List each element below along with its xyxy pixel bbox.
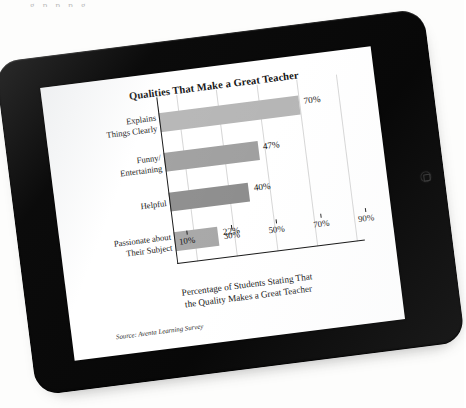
tick-label: 50% [268,223,285,235]
category-label: Helpful [67,198,168,221]
plot-wrapper: ExplainsThings ClearlyFunny/Entertaining… [54,79,383,277]
bar-value-label: 70% [303,94,321,106]
category-label: ExplainsThings Clearly [56,113,158,146]
tick-mark [320,214,321,218]
tick-mark [186,231,187,235]
tick-label: 90% [357,212,374,224]
category-label-line: Helpful [67,198,168,221]
category-axis-labels: ExplainsThings ClearlyFunny/Entertaining… [54,105,176,277]
device-bezel: Qualities That Make a Great Teacher Expl… [0,8,465,395]
category-label: Funny/Entertaining [61,152,163,185]
bar[interactable] [158,96,300,132]
category-label: Passionate aboutTheir Subject [71,232,173,265]
tick-mark [275,219,276,223]
page-text-fragment: g p p p g [30,0,454,7]
bar[interactable] [163,141,259,172]
tick-mark [231,225,232,229]
tick-label: 70% [313,218,330,230]
bar-value-label: 40% [253,181,271,193]
chart-figure: Qualities That Make a Great Teacher Expl… [40,46,405,361]
tablet-screen[interactable]: Qualities That Make a Great Teacher Expl… [40,46,405,361]
bar[interactable] [168,183,250,212]
tick-label: 10% [178,235,195,247]
bar-value-label: 47% [262,139,280,151]
tablet-device: Qualities That Make a Great Teacher Expl… [0,8,465,395]
tick-label: 30% [223,229,240,241]
home-button-icon[interactable] [420,171,432,183]
